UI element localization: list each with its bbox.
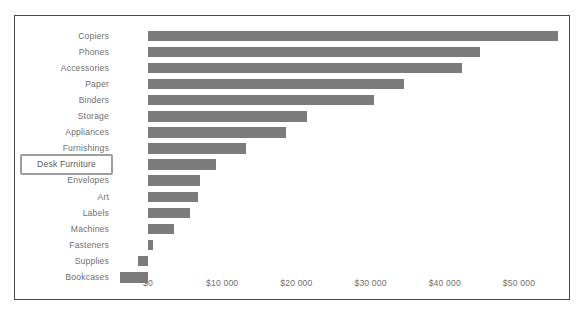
bar[interactable] xyxy=(148,224,174,235)
bar[interactable] xyxy=(148,111,307,122)
bar[interactable] xyxy=(148,159,216,170)
bar-row[interactable]: Accessories xyxy=(15,60,569,76)
bar-row[interactable]: Appliances xyxy=(15,124,569,140)
category-label: Appliances xyxy=(0,124,109,140)
category-label: Labels xyxy=(0,205,109,221)
bar[interactable] xyxy=(148,63,462,74)
category-label: Supplies xyxy=(0,253,109,269)
bar-row[interactable]: Labels xyxy=(15,205,569,221)
bar[interactable] xyxy=(138,256,148,267)
bar-row[interactable]: Machines xyxy=(15,221,569,237)
category-label: Copiers xyxy=(0,28,109,44)
bar-row[interactable]: Binders xyxy=(15,92,569,108)
category-label: Accessories xyxy=(0,60,109,76)
category-label: Storage xyxy=(0,108,109,124)
bar[interactable] xyxy=(148,47,480,58)
bar[interactable] xyxy=(148,175,200,186)
x-axis-title-clip: Profit xyxy=(15,278,569,301)
bar-row[interactable]: Supplies xyxy=(15,253,569,269)
category-label: Paper xyxy=(0,76,109,92)
bar[interactable] xyxy=(148,208,190,219)
category-label: Phones xyxy=(0,44,109,60)
bar-row[interactable]: Art xyxy=(15,189,569,205)
bar[interactable] xyxy=(148,95,374,106)
bar[interactable] xyxy=(148,240,153,251)
bar-row[interactable]: Paper xyxy=(15,76,569,92)
bar-row[interactable]: Phones xyxy=(15,44,569,60)
bar[interactable] xyxy=(148,31,558,42)
highlighted-category-label: Desk Furniture xyxy=(20,154,113,175)
bar[interactable] xyxy=(148,143,246,154)
category-label: Fasteners xyxy=(0,237,109,253)
bar[interactable] xyxy=(148,192,198,203)
bar-row[interactable]: Storage xyxy=(15,108,569,124)
bar[interactable] xyxy=(148,79,404,90)
bar[interactable] xyxy=(148,127,286,138)
category-label: Art xyxy=(0,189,109,205)
bar-row[interactable]: Copiers xyxy=(15,28,569,44)
chart-frame: CopiersPhonesAccessoriesPaperBindersStor… xyxy=(14,15,570,300)
category-label: Machines xyxy=(0,221,109,237)
category-label: Binders xyxy=(0,92,109,108)
bar-row[interactable]: Fasteners xyxy=(15,237,569,253)
